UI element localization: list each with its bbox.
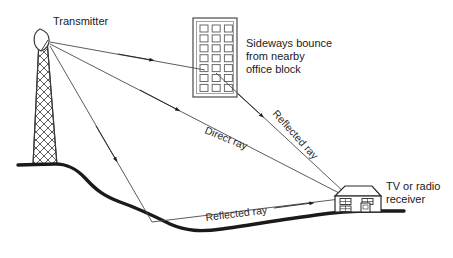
ray-reflected-building-arrow <box>238 94 262 116</box>
office-block-label-line3: office block <box>246 63 301 75</box>
ray-to-ground-arrow <box>96 126 116 160</box>
transmitter-label: Transmitter <box>53 15 109 27</box>
ray-to-office-block-arrow <box>118 54 152 60</box>
office-block-window <box>212 55 220 62</box>
direct-ray-label: Direct ray <box>203 124 250 152</box>
office-block-window <box>224 35 232 42</box>
office-block-window <box>200 65 208 72</box>
receiver-label-line2: receiver <box>386 193 425 205</box>
office-block-label-line2: from nearby <box>246 50 305 62</box>
house-roof <box>335 186 381 196</box>
office-block-label-line1: Sideways bounce <box>246 37 332 49</box>
office-block-window <box>224 84 232 91</box>
office-block-window <box>212 84 220 91</box>
ray-reflected-building <box>216 73 344 192</box>
propagation-diagram: Transmitter Sideways bounce from nearby … <box>0 0 453 258</box>
transmitter-tower <box>33 29 57 165</box>
reflected-ray-building-label: Reflected ray <box>271 107 322 162</box>
office-block-window <box>224 75 232 82</box>
office-block-window <box>200 84 208 91</box>
office-block-window <box>224 25 232 32</box>
ray-reflected-ground-arrow <box>274 203 312 208</box>
office-block-window <box>200 45 208 52</box>
office-block-window <box>200 75 208 82</box>
office-block <box>193 18 237 97</box>
reflected-ray-ground-label: Reflected ray <box>205 203 269 223</box>
receiver-label-line1: TV or radio <box>386 180 440 192</box>
office-block-windows <box>200 25 232 91</box>
house-door <box>361 203 370 212</box>
office-block-window <box>212 25 220 32</box>
office-block-window <box>224 45 232 52</box>
ray-direct-arrow <box>140 90 178 110</box>
office-block-window <box>212 45 220 52</box>
office-block-window <box>200 55 208 62</box>
office-block-window <box>200 35 208 42</box>
office-block-window <box>200 25 208 32</box>
receiver-house <box>335 186 381 212</box>
dish-antenna-icon <box>34 29 49 51</box>
office-block-window <box>224 55 232 62</box>
office-block-window <box>212 35 220 42</box>
office-block-window <box>212 65 220 72</box>
office-block-window <box>224 65 232 72</box>
